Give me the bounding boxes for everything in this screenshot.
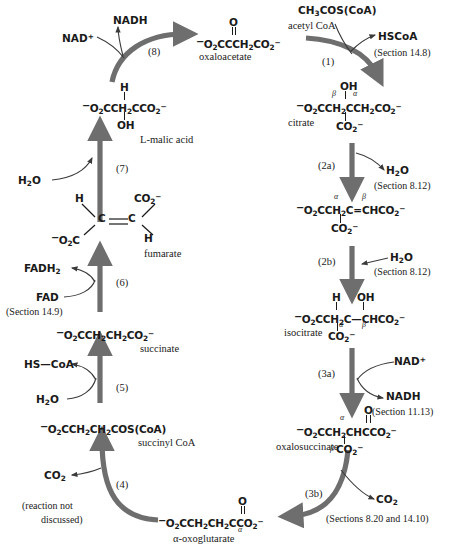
cofactor-co2-step4: CO2 [44,469,66,483]
oxoglutarate-carbonyl-o: O [238,495,247,507]
thin-arrow-water-in-2b [362,258,388,264]
succinate-formula: −O2CCH2CH2CO2− [56,327,154,343]
citric-acid-cycle-diagram: NADH NAD+ (8) O −O2CCCH2CO2− oxaloacetat… [0,0,453,552]
arrow-step-1 [306,38,377,74]
thin-arrow-co2-out-4 [72,468,101,475]
isocitrate-alpha-label: α [339,320,343,329]
annotation-section-8-12-a: (Section 8.12) [374,180,431,191]
thin-arrow-nadh-out-3a [357,378,383,398]
malic-acid-bond-h [124,92,125,100]
fumarate-c-right: C [128,212,136,224]
thin-arrow-nad-in-3a [357,362,394,380]
annotation-reaction-not-discussed-line1: (reaction not [22,500,73,511]
fumarate-label: fumarate [144,248,181,259]
aconitate-alpha-label: α [334,192,338,201]
citrate-co2: CO2− [336,120,363,134]
isocitrate-formula: −O2CCH2C—CHCO2− [294,311,405,327]
cofactor-nad-plus-step3a: NAD+ [394,355,426,367]
citrate-formula: −O2CCH2CCH2CO2− [296,100,402,116]
thin-arrow-water-in-5 [67,378,96,399]
step-label-5: (5) [116,382,128,393]
cofactor-nadh-step8: NADH [113,14,147,26]
cofactor-hs-coa-step5: HS—CoA [24,358,74,370]
oxalosuccinate-alpha-label: α [340,413,344,422]
isocitrate-beta-label: β [362,320,366,329]
oxalosuccinate-co2: CO2− [336,443,363,457]
annotation-section-11-13: (Section 11.13) [372,406,433,417]
fumarate-o2c-left: −O2C [51,232,80,248]
arrow-step-3b [292,450,348,516]
oxaloacetate-double-bond-b [235,27,236,35]
step-label-2b: (2b) [318,256,336,267]
cofactor-acetyl-coa-formula: CH3COS(CoA) [298,4,376,18]
cofactor-water-step2a: H2O [386,164,409,178]
step-label-7: (7) [116,163,128,174]
annotation-section-8-12-b: (Section 8.12) [374,266,431,277]
isocitrate-oh: OH [357,291,374,303]
thin-arrow-water-in-7 [52,158,92,180]
cofactor-acetyl-coa-label: acetyl CoA [288,20,336,31]
step-label-3a: (3a) [318,368,335,379]
aconitate-beta-label: β [362,192,366,201]
fumarate-h-bottom: H [144,232,153,244]
thin-arrow-hscoa-out-5 [72,364,96,380]
thin-arrow-water-out-2a [356,153,384,170]
oxalosuccinate-formula: −O2CCH2CHCCO2− [296,424,397,440]
thin-arrow-fadh2-out-6 [72,268,95,282]
citrate-beta-label: β [332,89,336,98]
aconitate-formula: −O2CCH2C=CHCO2− [296,202,405,218]
oxaloacetate-label: oxaloacetate [199,51,251,62]
succinate-label: succinate [140,343,179,354]
cofactor-water-step5: H2O [36,393,59,407]
step-label-1: (1) [322,56,334,67]
step-label-8: (8) [148,46,160,57]
step-label-6: (6) [116,277,128,288]
oxaloacetate-double-bond-a [232,27,233,35]
oxalosuccinate-label: oxalosuccinate [276,441,338,452]
cofactor-fad-step6: FAD [36,291,59,303]
cofactor-co2-step3b: CO2 [376,493,398,507]
step-label-3b: (3b) [305,488,323,499]
citrate-label: citrate [288,117,314,128]
cofactor-nadh-step3a: NADH [386,390,420,402]
oxoglutarate-double-bond-b [244,506,245,514]
succinyl-coa-formula: −O2CCH2CH2COS(CoA) [40,421,166,437]
isocitrate-bond-oh [363,302,364,310]
cofactor-hscoa-step1: HSCoA [378,30,417,42]
oxaloacetate-carbonyl-o: O [229,16,238,28]
isocitrate-bond-h [336,302,337,310]
arrow-step-8 [112,34,184,82]
oxoglutarate-label: α-oxoglutarate [173,533,234,544]
succinyl-coa-label: succinyl CoA [138,437,195,448]
cofactor-nad-plus-step8: NAD+ [62,32,94,44]
isocitrate-co2: CO2− [328,330,355,344]
malic-acid-oh: OH [117,119,134,131]
fumarate-bonds [55,195,215,265]
oxoglutarate-double-bond-a [241,506,242,514]
arrow-step-4 [102,440,158,520]
isocitrate-label: isocitrate [284,327,322,338]
step-label-2a: (2a) [318,160,335,171]
annotation-section-14-8: (Section 14.8) [374,47,431,58]
oxoglutarate-alpha-label: α [238,525,242,534]
annotation-reaction-not-discussed-line2: discussed) [41,514,83,525]
thin-arrow-fad-in-6 [64,280,95,297]
cofactor-water-step7: H2O [18,174,41,188]
citrate-alpha-label: α [353,89,357,98]
citrate-bond-oh [345,91,346,99]
fumarate-c-left: C [98,212,106,224]
oxaloacetate-formula: −O2CCCH2CO2− [196,36,280,52]
malic-acid-label: L-malic acid [140,134,193,145]
oxalosuccinate-double-bond-a [366,415,367,423]
annotation-sections-8-20-14-10: (Sections 8.20 and 14.10) [326,513,429,524]
step-label-4: (4) [116,479,128,490]
aconitate-co2: CO2− [331,222,358,236]
oxalosuccinate-double-bond-b [370,415,371,423]
oxoglutarate-formula: −O2CCH2CH2CCO2− [158,515,264,531]
cofactor-water-step2b: H2O [390,251,413,265]
annotation-section-14-9: (Section 14.9) [6,306,63,317]
